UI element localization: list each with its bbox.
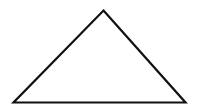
diagram-canvas	[0, 0, 201, 112]
triangle-diagram	[0, 0, 201, 112]
triangle-shape	[14, 11, 186, 103]
